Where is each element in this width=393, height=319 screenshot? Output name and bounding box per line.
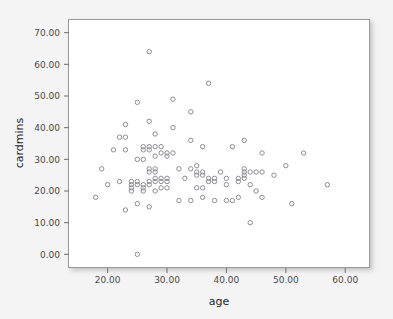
x-tick-label: 30.00 [154, 275, 180, 285]
scatter-plot-figure: 0.0010.0020.0030.0040.0050.0060.0070.00 … [0, 0, 393, 319]
x-tick-label: 20.00 [95, 275, 121, 285]
plot-area-frame [69, 20, 370, 268]
x-axis-title: age [209, 295, 230, 308]
y-tick-label: 0.00 [40, 250, 60, 260]
x-tick-label: 50.00 [273, 275, 299, 285]
y-tick-label: 70.00 [34, 28, 60, 38]
y-tick-label: 30.00 [34, 155, 60, 165]
y-tick-label: 10.00 [34, 218, 60, 228]
x-tick-label: 40.00 [214, 275, 240, 285]
y-tick-label: 60.00 [34, 60, 60, 70]
y-tick-label: 20.00 [34, 186, 60, 196]
y-tick-label: 40.00 [34, 123, 60, 133]
y-axis-title: cardmins [13, 117, 26, 168]
y-tick-label: 50.00 [34, 91, 60, 101]
plot-canvas: 0.0010.0020.0030.0040.0050.0060.0070.00 … [0, 0, 393, 319]
x-tick-label: 60.00 [332, 275, 358, 285]
